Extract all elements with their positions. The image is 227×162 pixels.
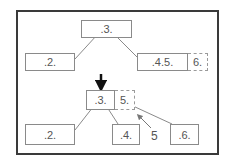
node-label: .4.5. [152,56,173,68]
bottom-root-node: .3. [86,90,115,110]
edge-bottom-root-left [75,107,93,130]
top-right-node: .4.5. [137,53,188,71]
node-label: .3. [94,94,106,106]
promoted-key-label: 5 [151,129,158,143]
top-root-node: .3. [81,20,132,38]
bottom-left-node: .2. [25,124,75,145]
node-label: .4. [120,129,132,141]
bottom-middle-node: .4. [112,124,140,145]
edge-top-root-right [115,35,138,58]
node-label: .3. [100,23,112,35]
edge-top-root-left [75,35,97,59]
bottom-root-overflow-node: 5. [115,90,135,110]
node-label: .6. [178,129,190,141]
node-label: .2. [44,129,56,141]
node-label: 5. [120,94,129,106]
bottom-right-node: .6. [170,124,199,145]
top-left-node: .2. [25,53,75,71]
node-label: .2. [44,56,56,68]
promote-arrow-icon [139,116,151,128]
top-overflow-node: 6. [188,53,208,71]
edge-bottom-overflow-right [133,106,172,124]
node-label: 6. [193,56,202,68]
